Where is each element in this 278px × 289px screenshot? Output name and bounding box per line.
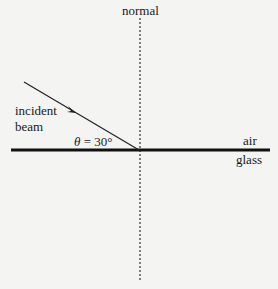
angle-label: θ = 30° — [74, 135, 112, 149]
beam-label: beam — [15, 120, 43, 134]
incident-label: incident — [15, 104, 57, 118]
air-label: air — [243, 134, 257, 148]
glass-label: glass — [236, 153, 262, 167]
normal-label: normal — [122, 4, 159, 18]
refraction-diagram — [0, 0, 278, 289]
arrow-icon — [67, 106, 76, 113]
angle-value: = 30° — [80, 134, 112, 149]
